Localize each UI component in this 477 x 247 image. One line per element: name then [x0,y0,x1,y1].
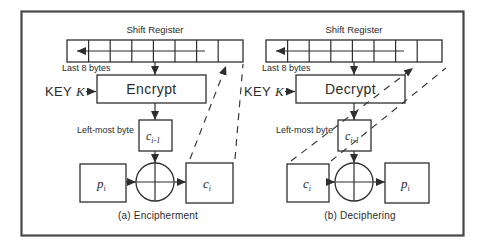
key-label-b: KEYK [244,84,285,99]
xor-node-b [335,163,373,201]
shift-register-label-a: Shift Register [126,24,183,35]
caption-a: (a) Encipherment [118,210,198,221]
key-symbol-a: K [75,84,86,99]
key-label-a: KEYK [45,84,86,99]
caption-b: (b) Deciphering [324,210,395,221]
encrypt-label: Encrypt [126,81,176,97]
leftmost-byte-label-b: Left-most byte [276,125,333,135]
decrypt-label: Decrypt [325,81,376,97]
panel-a-encipherment: Shift Register Last 8 bytes KEYK Encrypt… [45,24,243,221]
shift-register-label-b: Shift Register [325,24,382,35]
feedback-dashed-line-a [235,64,243,159]
last-8-bytes-label-b: Last 8 bytes [262,63,311,73]
key-symbol-b: K [274,84,285,99]
ciphertext-box-a [186,163,233,203]
key-word-b: KEY [244,84,271,99]
panel-b-deciphering: Shift Register Last 8 bytes KEYK Decrypt… [244,24,446,221]
figure-drawing: Shift Register Last 8 bytes KEYK Encrypt… [0,0,477,247]
last-8-bytes-label-a: Last 8 bytes [62,63,111,73]
cfb-mode-figure: Shift Register Last 8 bytes KEYK Encrypt… [0,0,477,247]
xor-node-a [136,163,174,201]
key-word-a: KEY [45,84,72,99]
shift-register-a [67,40,243,62]
leftmost-byte-label-a: Left-most byte [77,125,134,135]
shift-register-b [266,40,442,62]
